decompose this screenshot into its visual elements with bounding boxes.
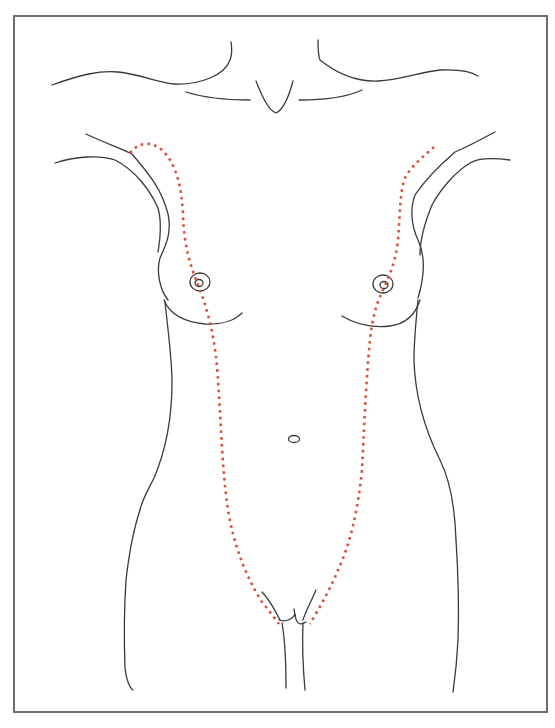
left-milk-line — [130, 144, 279, 624]
right-milk-line — [310, 147, 434, 624]
navel — [289, 436, 300, 443]
right-shoulder-outline — [342, 132, 510, 540]
hip-leg-outline — [124, 510, 458, 692]
diagram-stage: Milk lines (mammary ridges) from axilla … — [0, 0, 555, 728]
neck-clavicle-outline — [52, 40, 478, 113]
torso-illustration — [0, 0, 555, 728]
left-shoulder-outline — [55, 134, 242, 510]
left-areola — [190, 273, 210, 291]
